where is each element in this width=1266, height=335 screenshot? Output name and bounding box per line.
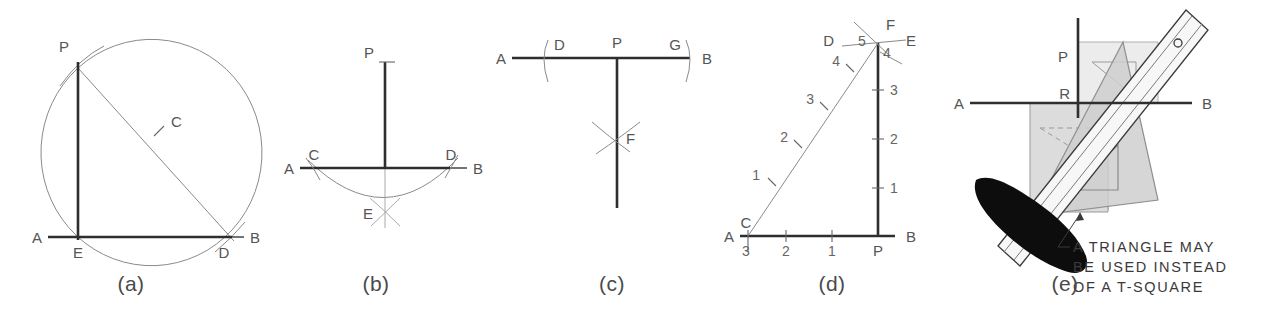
tick-hyp-2 bbox=[794, 140, 802, 148]
note-line-1: A TRIANGLE MAY bbox=[1073, 239, 1215, 255]
label-p: P bbox=[1058, 48, 1068, 65]
label-hyp-3: 3 bbox=[806, 91, 814, 107]
label-c: C bbox=[309, 146, 320, 163]
label-a: A bbox=[954, 95, 964, 112]
line-p-to-b bbox=[78, 68, 234, 241]
label-p: P bbox=[364, 44, 374, 61]
note-line-2: BE USED INSTEAD bbox=[1073, 259, 1228, 275]
label-hyp-2: 2 bbox=[780, 129, 788, 145]
label-d: D bbox=[446, 146, 457, 163]
tick-hyp-3 bbox=[820, 102, 828, 110]
panel-caption-d: (d) bbox=[818, 272, 845, 296]
label-e: E bbox=[906, 32, 916, 49]
label-p: P bbox=[59, 38, 69, 55]
label-a: A bbox=[32, 229, 42, 246]
label-d: D bbox=[219, 244, 230, 261]
label-c: C bbox=[741, 214, 752, 231]
label-b: B bbox=[250, 229, 260, 246]
panel-c: A D P G B F (c) bbox=[490, 0, 720, 335]
tick-hyp-4 bbox=[846, 64, 854, 72]
panel-caption-a: (a) bbox=[117, 272, 144, 296]
label-b: B bbox=[473, 160, 483, 177]
label-r: R bbox=[1059, 85, 1070, 102]
label-hyp-4: 4 bbox=[832, 53, 840, 69]
panel-a: P C A E D B (a) bbox=[0, 0, 262, 335]
label-d: D bbox=[823, 32, 834, 49]
label-vert-4: 4 bbox=[883, 45, 891, 61]
tick-hyp-1 bbox=[768, 178, 776, 186]
label-vert-2: 2 bbox=[890, 131, 898, 147]
label-c: C bbox=[171, 113, 182, 130]
label-hyp-5: 5 bbox=[858, 33, 866, 49]
label-vert-3: 3 bbox=[890, 82, 898, 98]
panel-e: P R A B A TRIANGLE MAY BE USED INSTEAD O… bbox=[940, 0, 1266, 335]
label-base-3: 3 bbox=[742, 243, 750, 259]
label-p: P bbox=[612, 34, 622, 51]
note-leader-arrow bbox=[1076, 212, 1084, 221]
panel-caption-c: (c) bbox=[599, 272, 625, 296]
label-base-2: 2 bbox=[782, 243, 790, 259]
arc-cross-f-1 bbox=[592, 122, 630, 152]
panel-caption-e: (e) bbox=[1051, 272, 1078, 296]
label-a: A bbox=[496, 50, 506, 67]
label-d: D bbox=[554, 36, 565, 53]
arc-cd bbox=[308, 158, 458, 198]
panel-e-drawing: P R A B A TRIANGLE MAY BE USED INSTEAD O… bbox=[940, 0, 1266, 335]
label-g: G bbox=[669, 36, 681, 53]
note-line-3: OF A T-SQUARE bbox=[1073, 279, 1204, 295]
label-p: P bbox=[873, 242, 883, 259]
label-f: F bbox=[886, 16, 895, 33]
panel-caption-b: (b) bbox=[362, 272, 389, 296]
label-f: F bbox=[626, 130, 635, 147]
figure-geometric-constructions: P C A E D B (a) P A bbox=[0, 0, 1266, 335]
arc-g bbox=[686, 40, 690, 82]
hypotenuse-cf bbox=[748, 43, 878, 236]
label-b: B bbox=[1202, 95, 1212, 112]
tick-c bbox=[154, 126, 164, 136]
label-e: E bbox=[363, 205, 373, 222]
label-vert-1: 1 bbox=[890, 180, 898, 196]
label-base-1: 1 bbox=[828, 243, 836, 259]
label-a: A bbox=[724, 228, 734, 245]
label-a: A bbox=[284, 160, 294, 177]
label-b: B bbox=[906, 228, 916, 245]
panel-b: P A C D B E (b) bbox=[262, 0, 490, 335]
label-hyp-1: 1 bbox=[752, 167, 760, 183]
panel-d: A C 3 2 1 P B 1 2 3 1 2 3 4 D 5 F 4 E (d… bbox=[710, 0, 940, 335]
construction-arc-lower bbox=[78, 39, 262, 237]
label-e: E bbox=[73, 244, 83, 261]
arc-d bbox=[544, 40, 548, 82]
